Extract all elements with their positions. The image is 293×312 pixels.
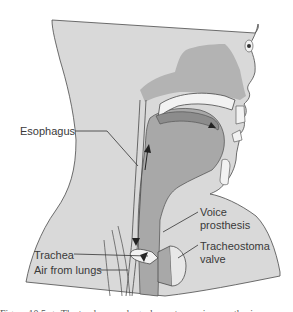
tracheostoma-valve-shape <box>158 246 172 286</box>
figure-caption: Figure 10.5 ▲ The tracheoesophageal punc… <box>0 304 293 312</box>
label-tracheostoma-valve-2: valve <box>200 253 226 265</box>
label-esophagus: Esophagus <box>20 125 75 137</box>
label-voice-prosthesis-2: prosthesis <box>200 219 250 231</box>
label-air-from-lungs: Air from lungs <box>34 264 102 276</box>
label-trachea: Trachea <box>34 249 74 261</box>
label-voice-prosthesis-1: Voice <box>200 206 227 218</box>
label-tracheostoma-valve-1: Tracheostoma <box>200 240 270 252</box>
pupil <box>247 44 251 48</box>
